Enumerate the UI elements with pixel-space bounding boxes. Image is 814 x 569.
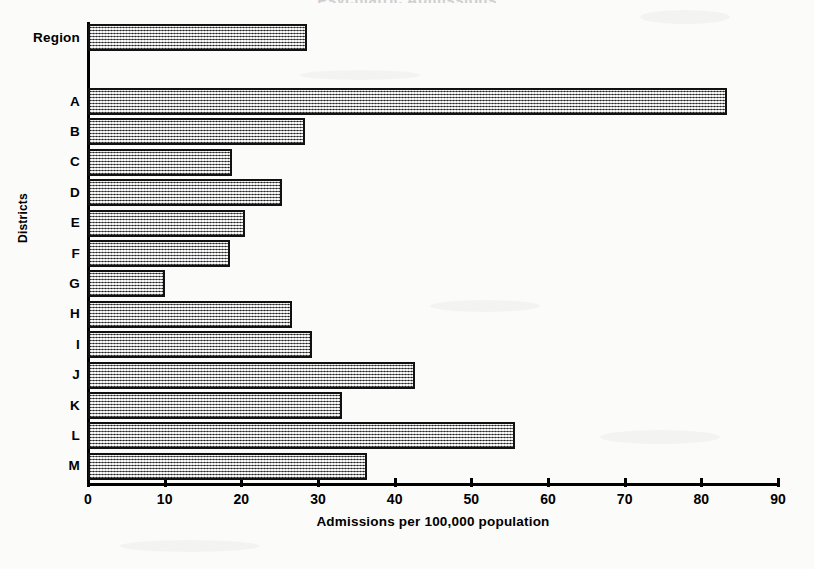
bar [88,301,292,328]
y-category-label-b: B [0,124,80,139]
y-category-label-l: L [0,428,80,443]
bar-chart: Psychiatric Admissions Districts 0102030… [0,0,814,569]
x-tick-label: 30 [298,491,338,507]
x-tick-mark [470,478,473,487]
x-tick-label: 90 [758,491,798,507]
y-category-label-region: Region [0,30,80,45]
y-category-label-g: G [0,276,80,291]
y-category-label-m: M [0,458,80,473]
scan-artifact [640,10,730,24]
scan-artifact [120,540,260,552]
bar [88,453,367,480]
x-tick-label: 60 [528,491,568,507]
y-category-label-i: I [0,337,80,352]
bar [88,179,282,206]
bar [88,88,727,115]
y-category-label-d: D [0,185,80,200]
y-category-label-e: E [0,215,80,230]
y-category-label-k: K [0,398,80,413]
bar [88,118,305,145]
bar [88,270,165,297]
bar [88,392,342,419]
scan-artifact [600,430,720,444]
x-tick-mark [700,478,703,487]
bar [88,149,232,176]
x-tick-mark [777,478,780,487]
scan-artifact [300,70,420,80]
x-tick-label: 40 [375,491,415,507]
bar [88,362,415,389]
x-tick-mark [394,478,397,487]
bar [88,240,230,267]
y-category-label-j: J [0,367,80,382]
chart-title: Psychiatric Admissions [0,0,814,3]
y-category-label-h: H [0,306,80,321]
x-tick-label: 10 [145,491,185,507]
x-tick-mark [624,478,627,487]
bar [88,422,515,449]
y-category-label-f: F [0,246,80,261]
bar [88,24,307,51]
x-axis-line [87,483,779,486]
x-tick-label: 70 [605,491,645,507]
x-axis-title: Admissions per 100,000 population [88,514,778,529]
x-tick-label: 50 [451,491,491,507]
x-tick-mark [547,478,550,487]
y-category-label-c: C [0,154,80,169]
x-tick-label: 0 [68,491,108,507]
x-tick-label: 80 [681,491,721,507]
bar [88,210,245,237]
bar [88,331,312,358]
y-category-label-a: A [0,94,80,109]
scan-artifact [430,300,540,312]
x-tick-label: 20 [221,491,261,507]
